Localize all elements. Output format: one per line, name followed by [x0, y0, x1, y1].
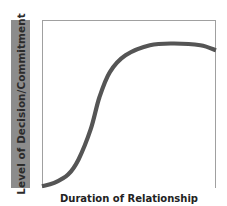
plot-area: [0, 0, 227, 206]
commitment-curve: [42, 44, 216, 187]
x-axis-label: Duration of Relationship: [42, 193, 216, 204]
